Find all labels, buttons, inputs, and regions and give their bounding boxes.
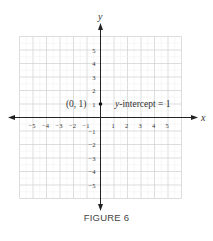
y-tick-label: 1 xyxy=(92,101,95,108)
x-tick-label: 3 xyxy=(138,122,141,129)
y-tick-label: −5 xyxy=(89,182,96,189)
x-tick-label: 2 xyxy=(125,122,128,129)
y-axis-label: y xyxy=(97,11,103,22)
y-tick-label: −2 xyxy=(89,141,96,148)
x-axis-right-arrow-icon xyxy=(191,115,198,120)
y-intercept-annotation: y-intercept = 1 xyxy=(114,99,171,109)
x-tick-label: 5 xyxy=(165,122,168,129)
y-tick-label: 5 xyxy=(92,47,95,54)
point-label: (0, 1) xyxy=(66,99,87,110)
figure-caption: FIGURE 6 xyxy=(0,212,213,223)
coordinate-plane: xy −5−4−3−2−112345−5−4−3−2−112345 (0, 1)… xyxy=(0,0,213,241)
figure: xy −5−4−3−2−112345−5−4−3−2−112345 (0, 1)… xyxy=(0,0,213,241)
y-tick-label: −4 xyxy=(89,168,97,175)
x-tick-label: 1 xyxy=(111,122,114,129)
y-tick-label: 3 xyxy=(92,74,95,81)
x-tick-label: −5 xyxy=(29,122,36,129)
x-tick-label: −3 xyxy=(56,122,63,129)
x-tick-label: −2 xyxy=(69,122,76,129)
data-points: (0, 1) xyxy=(66,99,102,110)
x-tick-label: 4 xyxy=(152,122,156,129)
y-tick-label: −3 xyxy=(89,155,96,162)
x-axis-left-arrow-icon xyxy=(8,115,15,120)
y-tick-label: −1 xyxy=(89,128,96,135)
y-axis-up-arrow-icon xyxy=(98,23,103,30)
x-tick-label: −4 xyxy=(42,122,50,129)
x-axis-label: x xyxy=(200,112,206,123)
data-point xyxy=(99,102,103,106)
y-axis-down-arrow-icon xyxy=(98,204,103,211)
annotations: y-intercept = 1 xyxy=(114,99,171,109)
y-tick-label: 2 xyxy=(92,87,95,94)
